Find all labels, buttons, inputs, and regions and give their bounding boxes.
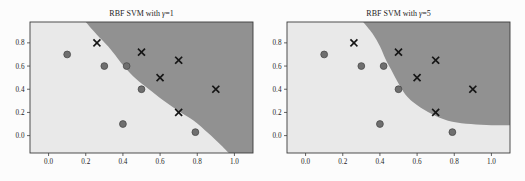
x-axis-tick-label: 0.2 [81,158,90,166]
y-axis-tick-label: 0.0 [273,132,282,140]
x-axis-tick-label: 1.0 [487,158,496,166]
y-axis-tick-label: 0.4 [273,86,282,94]
scatter-point-circle [395,86,402,93]
scatter-point-circle [321,51,328,58]
x-axis-tick-label: 0.6 [413,158,422,166]
scatter-point-circle [138,86,145,93]
scatter-point-circle [101,63,108,70]
scatter-point-circle [192,129,199,136]
scatter-point-circle [380,63,387,70]
scatter-point-circle [120,121,127,128]
x-axis-tick-label: 0.4 [118,158,127,166]
x-axis-tick-label: 0.6 [156,158,165,166]
y-axis-tick-label: 0.8 [273,39,282,47]
scatter-point-circle [64,51,71,58]
scatter-point-circle [358,63,365,70]
x-axis-tick-label: 0.2 [338,158,347,166]
y-axis-tick-label: 0.6 [273,63,282,71]
x-axis-tick-label: 0.4 [375,158,384,166]
scatter-point-circle [123,63,130,70]
y-axis-tick-label: 0.2 [273,109,282,117]
y-axis-tick-label: 0.4 [16,86,25,94]
scatter-point-circle [377,121,384,128]
y-axis-tick-label: 0.8 [16,39,25,47]
plot-title: RBF SVM with γ=1 [109,9,173,18]
rbf-svm-figure: 0.00.20.40.60.81.00.00.20.40.60.8RBF SVM… [0,0,525,181]
panel-rbf-svm-gamma-5: 0.00.20.40.60.81.00.00.20.40.60.8RBF SVM… [273,9,510,166]
panel-rbf-svm-gamma-1: 0.00.20.40.60.81.00.00.20.40.60.8RBF SVM… [16,9,253,166]
plot-title: RBF SVM with γ=5 [366,9,430,18]
y-axis-tick-label: 0.2 [16,109,25,117]
rbf-svm-comparison-plot: 0.00.20.40.60.81.00.00.20.40.60.8RBF SVM… [0,0,525,181]
scatter-point-circle [449,129,456,136]
y-axis-tick-label: 0.6 [16,63,25,71]
x-axis-tick-label: 0.0 [44,158,53,166]
x-axis-tick-label: 0.8 [193,158,202,166]
y-axis-tick-label: 0.0 [16,132,25,140]
x-axis-tick-label: 0.0 [301,158,310,166]
x-axis-tick-label: 1.0 [230,158,239,166]
x-axis-tick-label: 0.8 [450,158,459,166]
